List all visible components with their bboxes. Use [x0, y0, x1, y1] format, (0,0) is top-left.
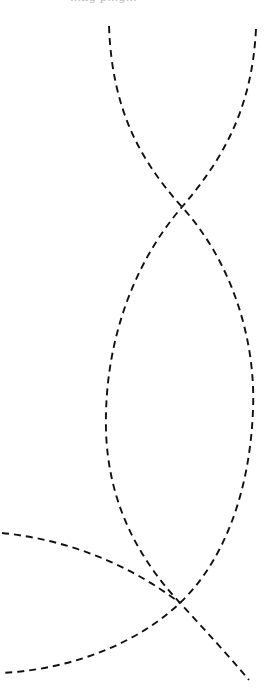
- curve-a: [2, 26, 253, 673]
- curve-c: [2, 533, 180, 603]
- dashed-curves-diagram: [0, 0, 271, 695]
